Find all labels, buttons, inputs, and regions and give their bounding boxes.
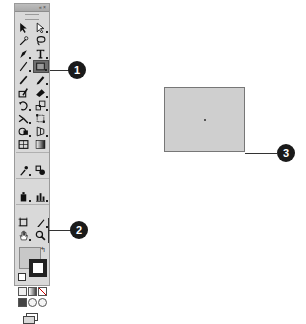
pen-tool[interactable] [16,47,32,60]
paintbrush-icon [18,74,29,85]
draw-inside-button[interactable] [38,298,47,307]
tools-panel: « × [14,3,50,286]
magic-wand-icon [18,35,29,46]
flyout-indicator [46,57,48,59]
free-transform-tool[interactable] [33,112,49,125]
shape-builder-icon [18,126,29,137]
eraser-tool[interactable] [33,86,49,99]
direct-selection-arrow-icon [35,22,46,33]
panel-grip[interactable] [25,14,39,20]
rotate-tool[interactable] [16,99,32,112]
hand-tool[interactable] [16,229,32,242]
magnifier-icon [35,230,46,241]
default-fill-stroke-icon[interactable] [18,273,26,281]
tool-grid [15,21,49,242]
flyout-indicator [46,96,48,98]
flyout-indicator [46,135,48,137]
flyout-indicator [46,109,48,111]
warp-icon [18,113,29,124]
rotate-icon [18,100,29,111]
hand-icon [18,230,29,241]
scale-icon [35,100,46,111]
flyout-indicator [29,70,31,72]
draw-normal-button[interactable] [18,298,27,307]
symbol-sprayer-icon [18,191,29,202]
blend-tool[interactable] [33,164,49,177]
rectangle-tool[interactable] [33,60,49,73]
mesh-icon [18,139,29,150]
flyout-indicator [29,174,31,176]
color-button[interactable] [18,287,27,296]
drawing-mode-buttons [15,298,49,307]
flyout-indicator [29,135,31,137]
tool-group-divider [16,152,49,155]
callout-badge-3: 3 [277,144,295,162]
mesh-tool[interactable] [16,138,32,151]
flyout-indicator [46,200,48,202]
zoom-tool[interactable] [33,229,49,242]
blend-icon [35,165,46,176]
line-segment-icon [18,61,29,72]
tools-panel-titlebar[interactable]: « × [15,4,49,12]
artboard-tool[interactable] [16,216,32,229]
gradient-button[interactable] [28,287,37,296]
type-t-icon [35,48,46,59]
eraser-icon [35,87,46,98]
lasso-icon [35,35,46,46]
draw-behind-button[interactable] [28,298,37,307]
perspective-grid-icon [35,126,46,137]
gradient-tool[interactable] [33,138,49,151]
eyedropper-icon [18,165,29,176]
eyedropper-tool[interactable] [16,164,32,177]
direct-selection-tool[interactable] [33,21,49,34]
callout-2-leader-line [48,230,72,231]
perspective-grid-tool[interactable] [33,125,49,138]
tool-group-divider [16,178,49,181]
slice-knife-icon [35,217,46,228]
panel-collapse-close-controls[interactable]: « × [39,5,46,10]
callout-badge-1: 1 [68,61,86,79]
flyout-indicator [29,57,31,59]
selection-arrow-icon [18,22,29,33]
line-segment-tool[interactable] [16,60,32,73]
rectangle-center-point [204,119,206,121]
paintbrush-tool[interactable] [16,73,32,86]
gradient-icon [35,139,46,150]
flyout-indicator [29,239,31,241]
scale-tool[interactable] [33,99,49,112]
callout-1-leader-line [50,70,70,71]
lasso-tool[interactable] [33,34,49,47]
pen-nib-icon [18,48,29,59]
tool-group-divider [16,204,49,207]
pencil-tool[interactable] [33,73,49,86]
callout-3-leader-line [245,153,277,154]
fill-stroke-controls: ↰ [17,245,47,285]
column-graph-tool[interactable] [33,190,49,203]
selection-tool[interactable] [16,21,32,34]
shape-builder-tool[interactable] [16,125,32,138]
none-button[interactable] [38,287,47,296]
slice-tool[interactable] [33,216,49,229]
flyout-indicator [46,31,48,33]
color-mode-buttons [15,287,49,296]
column-graph-icon [35,191,46,202]
type-tool[interactable] [33,47,49,60]
flyout-indicator [29,200,31,202]
free-transform-icon [35,113,46,124]
flyout-indicator [45,69,47,71]
flyout-indicator [29,109,31,111]
warp-tool[interactable] [16,112,32,125]
swap-fill-stroke-icon[interactable]: ↰ [40,246,46,254]
artboard-icon [18,217,29,228]
magic-wand-tool[interactable] [16,34,32,47]
flyout-indicator [29,122,31,124]
symbol-sprayer-tool[interactable] [16,190,32,203]
blob-brush-icon [18,87,29,98]
drawn-rectangle[interactable] [164,87,245,152]
blob-brush-tool[interactable] [16,86,32,99]
pencil-icon [35,74,46,85]
callout-badge-2: 2 [70,221,88,239]
change-screen-mode-icon[interactable] [26,313,38,321]
stroke-color-swatch[interactable] [29,259,47,277]
flyout-indicator [46,83,48,85]
